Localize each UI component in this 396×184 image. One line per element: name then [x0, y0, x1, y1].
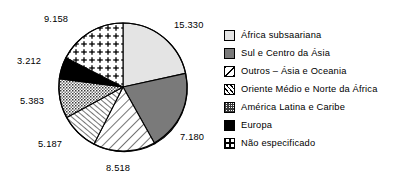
- legend-label-africa-subsaariana: África subsaariana: [241, 30, 321, 41]
- legend-label-nao-especificado: Não especificado: [241, 138, 315, 149]
- legend-swatch-diagonal-lines: [224, 66, 235, 77]
- chart-legend: África subsaariana Sul e Centro da Ásia …: [224, 26, 396, 158]
- pie-value-label-outros-asia-oceania: 8.518: [106, 163, 130, 174]
- pie-chart-figure: 15.330 7.180 8.518 5.187 5.383 3.212 9.1…: [0, 0, 396, 184]
- legend-item-nao-especificado: Não especificado: [224, 134, 396, 152]
- legend-label-outros-asia-oceania: Outros – Ásia e Oceania: [241, 66, 347, 77]
- pie-value-label-oriente-medio-norte-africa: 5.187: [38, 139, 62, 150]
- pie-value-label-america-latina-caribe: 5.383: [20, 96, 44, 107]
- legend-label-europa: Europa: [241, 120, 272, 131]
- legend-swatch-solid-light-gray: [224, 30, 235, 41]
- pie-chart-plot: 15.330 7.180 8.518 5.187 5.383 3.212 9.1…: [0, 0, 230, 184]
- legend-swatch-solid-dark-gray: [224, 48, 235, 59]
- pie-value-label-africa-subsaariana: 15.330: [174, 20, 204, 31]
- legend-label-oriente-medio-norte-africa: Oriente Médio e Norte da África: [241, 84, 378, 95]
- legend-swatch-cross-plus-grid: [224, 138, 235, 149]
- legend-item-oriente-medio-norte-africa: Oriente Médio e Norte da África: [224, 80, 396, 98]
- pie-value-label-sul-centro-asia: 7.180: [180, 132, 204, 143]
- legend-swatch-dense-diagonal-hatch: [224, 84, 235, 95]
- pie-value-label-nao-especificado: 9.158: [44, 14, 68, 25]
- legend-item-sul-centro-asia: Sul e Centro da Ásia: [224, 44, 396, 62]
- legend-item-america-latina-caribe: América Latina e Caribe: [224, 98, 396, 116]
- legend-item-europa: Europa: [224, 116, 396, 134]
- legend-label-sul-centro-asia: Sul e Centro da Ásia: [241, 48, 330, 59]
- legend-swatch-fine-dot-grid: [224, 102, 235, 113]
- legend-swatch-solid-black: [224, 120, 235, 131]
- legend-label-america-latina-caribe: América Latina e Caribe: [241, 102, 345, 113]
- legend-item-africa-subsaariana: África subsaariana: [224, 26, 396, 44]
- legend-item-outros-asia-oceania: Outros – Ásia e Oceania: [224, 62, 396, 80]
- pie-value-label-europa: 3.212: [17, 56, 41, 67]
